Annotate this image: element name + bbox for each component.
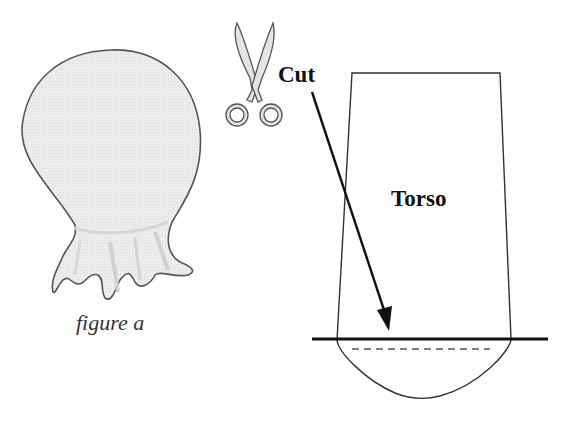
figure-a-caption: figure a: [76, 310, 144, 336]
torso-pattern: [312, 73, 548, 398]
cut-label: Cut: [278, 62, 315, 88]
scissors-blade-right: [252, 23, 274, 102]
figure-a-illustration: [22, 50, 201, 299]
torso-title: Torso: [391, 186, 446, 212]
scissors-icon: [226, 23, 282, 126]
